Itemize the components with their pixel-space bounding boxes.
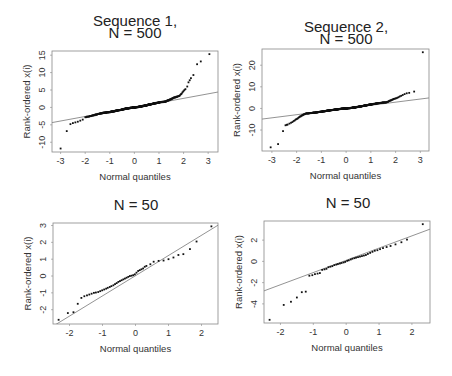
y-tick-label: 0 [247,106,257,111]
y-tick-label: 15 [37,50,47,60]
chart-title: N = 500 [109,24,162,41]
x-axis-label: Normal quantiles [311,342,383,353]
y-tick-label: 20 [247,60,257,70]
chart-title: N = 500 [320,30,373,47]
x-tick-label: 1 [166,328,171,338]
plot-frame [52,51,218,152]
x-tick-label: 2 [181,156,186,166]
y-tick-label: -1 [38,289,48,297]
x-tick-label: 3 [206,156,211,166]
y-tick-label: 1 [38,257,48,262]
x-tick-label: -2 [276,327,284,337]
x-tick-label: 2 [393,155,398,165]
y-axis-label: Rank-ordered x(i) [21,65,32,139]
x-tick-label: 2 [199,328,204,338]
x-tick-label: 0 [344,155,349,165]
y-axis-label: Rank-ordered x(i) [231,63,242,137]
x-tick-label: 0 [344,327,349,337]
panel-sequence-1-n500: Sequence 1,N = 500-3-2-10123-10-5051015N… [21,12,218,182]
y-axis-label: Rank-ordered x(i) [233,235,244,309]
qq-plot-figure: Sequence 1,N = 500-3-2-10123-10-5051015N… [0,0,452,376]
x-tick-label: -1 [106,156,114,166]
y-tick-label: -4 [249,300,259,308]
data-points [60,53,211,149]
x-axis-label: Normal quantiles [310,170,382,181]
panel-sequence-2-n50: N = 50-2-1012-4-202Normal quantilesRank-… [233,194,430,353]
x-tick-label: -1 [317,155,325,165]
y-tick-label: 0 [249,259,259,264]
x-axis-label: Normal quantiles [100,343,172,354]
x-tick-label: -1 [309,327,317,337]
panel-sequence-1-n50: N = 50-2-1012-2-10123Normal quantilesRan… [22,196,218,354]
y-tick-label: 10 [247,82,257,92]
data-points [270,51,424,148]
x-axis-label: Normal quantiles [99,171,171,182]
data-points [58,225,213,320]
y-axis-label: Rank-ordered x(i) [22,237,33,311]
x-tick-label: 3 [418,155,423,165]
chart-title: N = 50 [326,194,371,211]
x-tick-label: -2 [293,155,301,165]
x-tick-label: -3 [268,155,276,165]
y-tick-label: -10 [247,124,257,137]
y-tick-label: -5 [37,121,47,129]
data-points [269,223,424,320]
y-tick-label: 3 [38,223,48,228]
x-tick-label: -3 [57,156,65,166]
x-tick-label: -1 [98,328,106,338]
y-tick-label: 2 [38,240,48,245]
panel-sequence-2-n500: Sequence 2,N = 500-3-2-10123-1001020Norm… [231,18,429,181]
x-tick-label: 1 [368,155,373,165]
y-tick-label: 0 [37,105,47,110]
plot-frame [262,49,429,151]
y-tick-label: 5 [37,87,47,92]
reference-line [53,225,218,326]
x-tick-label: 0 [133,328,138,338]
x-tick-label: 1 [156,156,161,166]
x-tick-label: -2 [65,328,73,338]
x-tick-label: 0 [132,156,137,166]
x-tick-label: 2 [409,327,414,337]
x-tick-label: -2 [81,156,89,166]
chart-title: N = 50 [114,196,159,213]
y-tick-label: 10 [37,68,47,78]
y-tick-label: -2 [249,279,259,287]
x-tick-label: 1 [377,327,382,337]
y-tick-label: -2 [38,306,48,314]
y-tick-label: 2 [249,238,259,243]
y-tick-label: 0 [38,274,48,279]
plot-frame [264,221,430,323]
y-tick-label: -10 [37,136,47,149]
